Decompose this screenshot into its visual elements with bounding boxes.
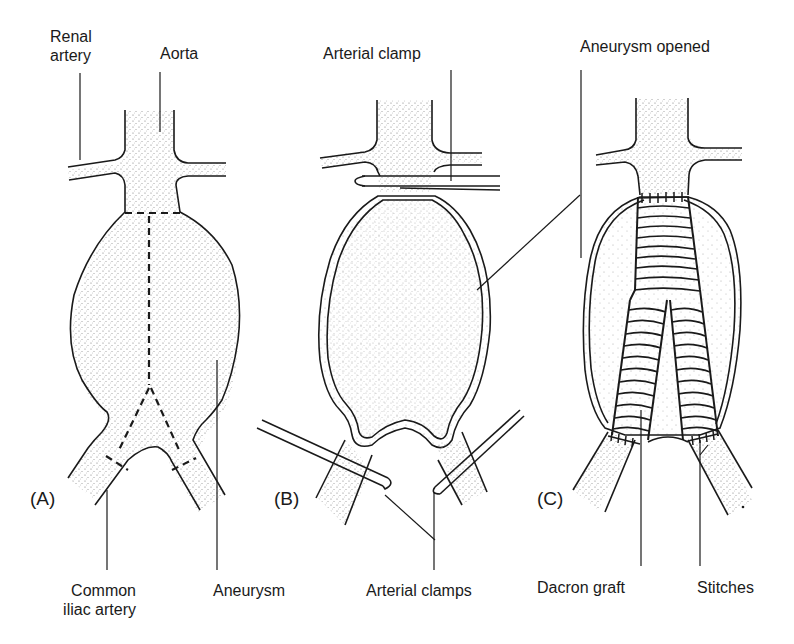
label-renal-artery: Renal artery [50,27,92,65]
label-aneurysm: Aneurysm [213,581,285,600]
label-common-iliac-artery: Common iliac artery [52,581,136,619]
panel-label-c: (C) [537,488,563,510]
panel-c-drawing [573,70,752,566]
label-common-iliac-line1: Common [52,581,136,600]
label-dacron-graft: Dacron graft [537,578,625,597]
label-renal-artery-line2: artery [50,46,92,65]
label-arterial-clamp: Arterial clamp [323,44,421,63]
label-aneurysm-opened: Aneurysm opened [580,37,710,56]
label-stitches: Stitches [697,578,754,597]
label-arterial-clamps: Arterial clamps [366,581,472,600]
panel-b-drawing [257,70,580,570]
panel-label-b: (B) [274,488,299,510]
aneurysm-repair-diagram [0,0,794,644]
label-common-iliac-line2: iliac artery [52,600,136,619]
label-renal-artery-line1: Renal [50,27,92,46]
label-aorta: Aorta [160,44,198,63]
panel-label-a: (A) [30,488,55,510]
panel-a-drawing [68,72,240,570]
